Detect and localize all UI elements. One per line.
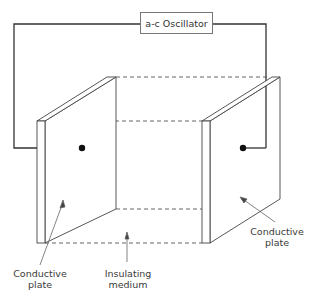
oscillator-box: a-c Oscillator bbox=[140, 12, 213, 34]
oscillator-label: a-c Oscillator bbox=[145, 18, 207, 29]
right-plate-label: Conductive plate bbox=[248, 226, 306, 248]
left-plate-label: Conductive plate bbox=[12, 268, 68, 290]
right-contact-dot bbox=[240, 145, 246, 151]
left-contact-dot bbox=[79, 145, 85, 151]
capacitor-diagram bbox=[0, 0, 310, 303]
medium-label: Insulating medium bbox=[100, 268, 156, 290]
right-plate bbox=[202, 77, 280, 243]
left-plate bbox=[37, 77, 116, 243]
